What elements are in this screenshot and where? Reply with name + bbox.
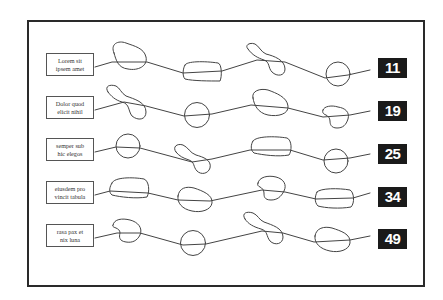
row-4-number-badge: 34 xyxy=(378,187,407,207)
row-4-label: eiusdem pro vincit tabula xyxy=(46,181,94,204)
blob-shape xyxy=(315,227,350,251)
row-3-shapes xyxy=(95,134,370,173)
rounded-rect-shape xyxy=(251,137,291,156)
row-1-label-line2: ipsem amet xyxy=(56,65,84,73)
circle-shape xyxy=(324,149,348,173)
rounded-rect-shape xyxy=(110,178,149,198)
row-2-label-line2: elicit nihil xyxy=(57,108,82,116)
row-1-number-badge: 11 xyxy=(378,58,407,78)
row-5-connector xyxy=(95,231,370,245)
circle-shape xyxy=(181,231,206,256)
blob-shape xyxy=(253,89,288,115)
peanut-shape xyxy=(247,43,285,75)
row-2-label-line1: Dolor quod xyxy=(56,100,84,108)
row-5-label: rasa pax et nix luna xyxy=(46,224,94,247)
blob-shape xyxy=(113,42,146,69)
row-3-label-line1: semper sub xyxy=(56,142,84,150)
blob-shape xyxy=(178,187,212,211)
row-1-label-line1: Lorem sit xyxy=(58,57,82,65)
row-4-shapes xyxy=(95,176,370,211)
row-5-label-line1: rasa pax et xyxy=(57,228,83,236)
row-2-shapes xyxy=(95,85,370,128)
heart-blob-shape xyxy=(113,219,141,242)
row-5-number-badge: 49 xyxy=(378,229,407,249)
row-5-label-line2: nix luna xyxy=(60,236,80,244)
circle-shape xyxy=(326,62,350,86)
row-4-label-line1: eiusdem pro xyxy=(55,185,85,193)
row-4-label-line2: vincit tabula xyxy=(55,193,86,201)
row-3-number-badge: 25 xyxy=(378,144,407,164)
row-1-shapes xyxy=(95,42,370,86)
row-1-label: Lorem sit ipsem amet xyxy=(46,53,94,76)
heart-blob-shape xyxy=(258,176,286,200)
row-4-connector xyxy=(95,190,370,201)
row-2-connector xyxy=(95,102,370,117)
row-3-label: semper sub hic elegos xyxy=(46,138,94,161)
row-2-label: Dolor quod elicit nihil xyxy=(46,96,94,119)
row-3-label-line2: hic elegos xyxy=(58,150,83,158)
row-2-number-badge: 19 xyxy=(378,101,407,121)
peanut-shape xyxy=(244,212,283,244)
row-5-shapes xyxy=(95,212,370,255)
circle-shape xyxy=(116,134,140,158)
